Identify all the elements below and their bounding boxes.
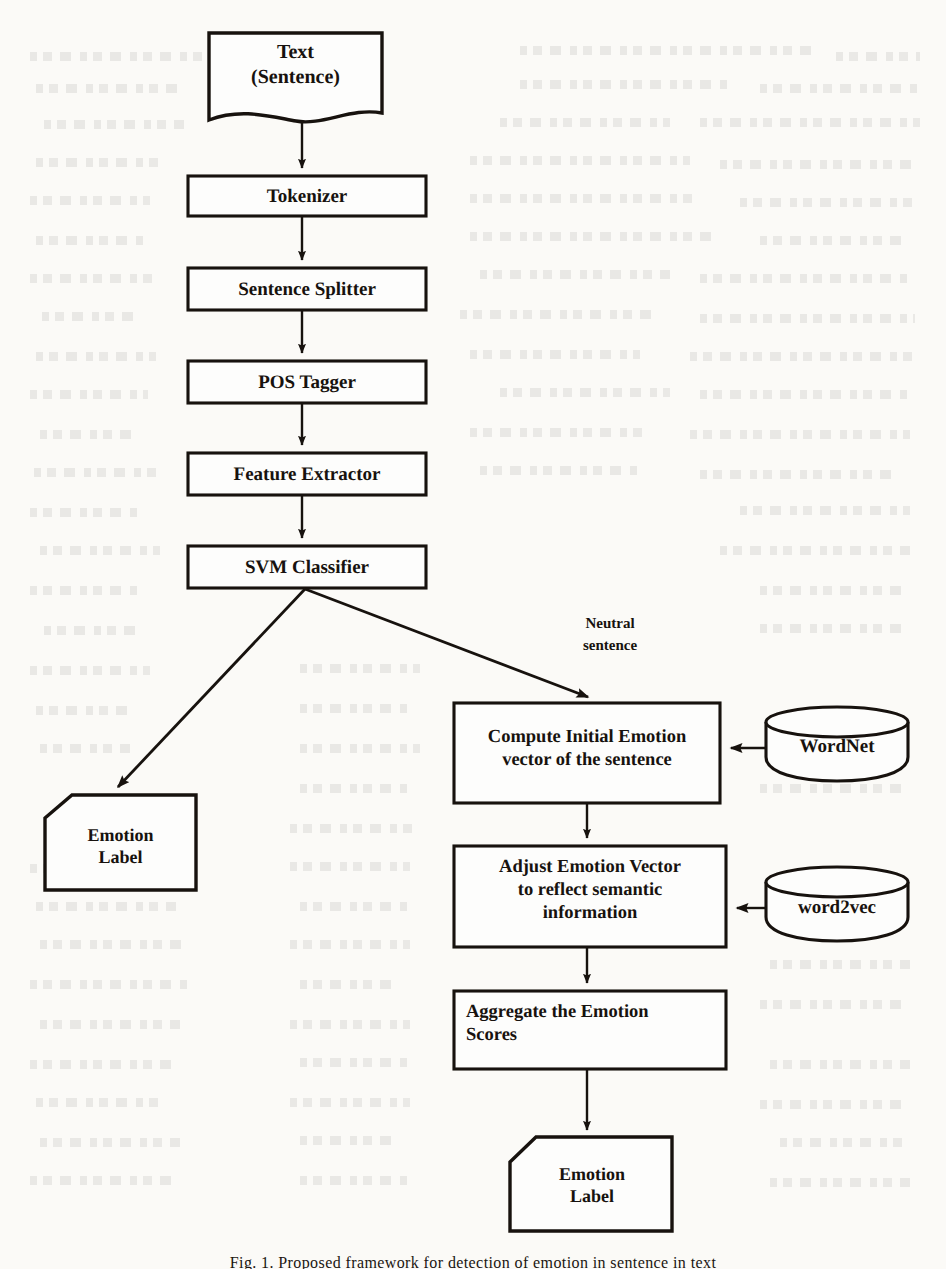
aggregate-scores-line2: Scores	[466, 1024, 724, 1047]
adjust-vector-line1: Adjust Emotion Vector	[458, 856, 722, 879]
emotion-label-left-text: Emotion Label	[45, 824, 196, 869]
edge-label-line2: sentence	[540, 635, 680, 657]
emotion-label-left-line2: Label	[45, 846, 196, 868]
aggregate-scores-line1: Aggregate the Emotion	[466, 1001, 724, 1024]
connector-svm-to-emotion-label-left	[118, 589, 305, 787]
text-input-label: Text (Sentence)	[209, 40, 382, 90]
sentence-splitter-label: Sentence Splitter	[188, 278, 426, 302]
aggregate-scores-label: Aggregate the Emotion Scores	[466, 1001, 724, 1047]
word2vec-label: word2vec	[766, 896, 908, 920]
pos-tagger-label: POS Tagger	[188, 371, 426, 395]
compute-initial-line1: Compute Initial Emotion	[458, 726, 716, 749]
flowchart-shapes	[0, 0, 946, 1269]
emotion-label-bottom-text: Emotion Label	[512, 1163, 672, 1208]
svm-classifier-label: SVM Classifier	[188, 556, 426, 580]
compute-initial-emotion-label: Compute Initial Emotion vector of the se…	[458, 726, 716, 772]
figure-canvas: Text (Sentence) Tokenizer Sentence Split…	[0, 0, 946, 1269]
adjust-vector-line3: information	[458, 902, 722, 925]
figure-caption: Fig. 1. Proposed framework for detection…	[0, 1254, 946, 1269]
compute-initial-line2: vector of the sentence	[458, 749, 716, 772]
wordnet-label: WordNet	[766, 735, 908, 759]
edge-label-neutral-sentence: Neutral sentence	[540, 613, 680, 657]
text-input-line1: Text	[209, 40, 382, 65]
edge-label-line1: Neutral	[540, 613, 680, 635]
emotion-label-left-line1: Emotion	[45, 824, 196, 846]
feature-extractor-label: Feature Extractor	[188, 463, 426, 487]
adjust-vector-line2: to reflect semantic	[458, 879, 722, 902]
tokenizer-label: Tokenizer	[188, 185, 426, 209]
adjust-emotion-vector-label: Adjust Emotion Vector to reflect semanti…	[458, 856, 722, 925]
text-input-line2: (Sentence)	[209, 65, 382, 90]
emotion-label-bottom-line2: Label	[512, 1185, 672, 1207]
emotion-label-bottom-line1: Emotion	[512, 1163, 672, 1185]
